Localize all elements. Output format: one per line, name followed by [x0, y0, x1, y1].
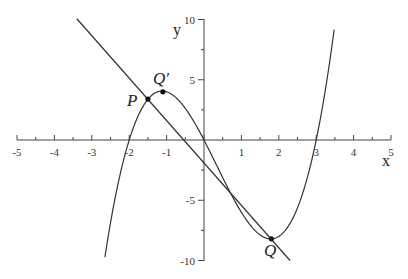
y-tick-label: 10 [184, 14, 196, 26]
x-tick-label: 2 [276, 146, 282, 158]
cubic-curve [105, 30, 334, 258]
y-tick-label: -10 [180, 255, 195, 267]
x-tick-label: -5 [12, 146, 22, 158]
x-tick-label: 4 [351, 146, 357, 158]
x-tick-label: 1 [239, 146, 245, 158]
plot-area: -5-4-3-2-112345 105-5-10 y x P Q′ Q [0, 0, 408, 279]
y-axis-title: y [173, 21, 181, 39]
y-tick-label: -5 [186, 194, 196, 206]
marked-points [145, 89, 274, 241]
y-tick-label: 5 [190, 74, 196, 86]
x-tick-labels: -5-4-3-2-112345 [12, 146, 394, 158]
point-label-q: Q [264, 241, 276, 260]
x-axis-title: x [382, 152, 390, 169]
x-tick-label: -1 [162, 146, 171, 158]
point-p [145, 96, 150, 101]
point-q-prime [160, 89, 165, 94]
point-label-q-prime: Q′ [153, 69, 169, 88]
x-tick-label: -3 [87, 146, 97, 158]
x-tick-label: -4 [50, 146, 60, 158]
point-label-p: P [126, 91, 137, 110]
